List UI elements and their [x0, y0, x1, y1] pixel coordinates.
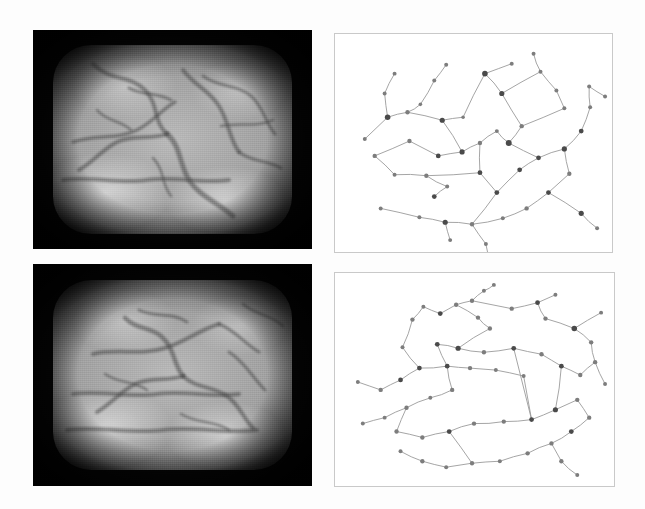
graph-edge: [381, 208, 420, 217]
graph-edge: [548, 174, 569, 193]
graph-edge: [385, 93, 388, 117]
graph-edge: [385, 74, 395, 94]
graph-node: [501, 216, 505, 220]
graph-node: [569, 429, 574, 434]
graph-edge: [589, 87, 605, 97]
graph-edge: [458, 328, 490, 348]
graph-edge: [551, 443, 561, 461]
graph-node: [562, 106, 566, 110]
graph-node: [432, 79, 436, 83]
graph-node: [536, 155, 541, 160]
graph-edge: [542, 354, 562, 366]
graph-edge: [522, 108, 565, 126]
graph-edge: [497, 170, 520, 193]
graph-node: [407, 139, 411, 143]
graph-node: [379, 206, 383, 210]
graph-edge: [407, 104, 420, 112]
graph-edge: [520, 158, 539, 170]
graph-node: [417, 366, 422, 371]
graph-node: [393, 173, 397, 177]
graph-edge: [580, 362, 595, 375]
graph-edge: [442, 120, 462, 152]
graph-node: [559, 364, 564, 369]
panel-bottom-left-image: [33, 264, 312, 486]
graph-node: [478, 170, 483, 175]
graph-edge: [430, 390, 452, 398]
specimen-region-bottom: [53, 280, 293, 471]
graph-edge: [462, 143, 480, 152]
graph-edge: [375, 141, 410, 156]
graph-edge: [479, 143, 480, 173]
graph-edge: [365, 117, 388, 139]
graph-node: [460, 149, 465, 154]
graph-edge: [434, 187, 447, 197]
graph-edge: [419, 217, 445, 222]
graph-edge: [472, 224, 486, 244]
graph-node: [468, 366, 472, 370]
graph-node: [476, 315, 480, 319]
graph-edge: [551, 432, 571, 444]
graph-node: [410, 317, 414, 321]
graph-edge: [437, 344, 447, 366]
graph-edge: [406, 398, 430, 408]
graph-node: [461, 115, 465, 119]
graph-edge: [426, 173, 480, 176]
graph-edge: [422, 432, 449, 438]
graph-edge: [509, 143, 539, 158]
graph-nodes-top: [363, 52, 607, 252]
graph-edge: [564, 149, 569, 174]
graph-node: [575, 473, 579, 477]
graph-node: [567, 172, 571, 176]
graph-node: [539, 352, 543, 356]
graph-node: [535, 300, 540, 305]
graph-node: [421, 305, 425, 309]
graph-edge: [556, 90, 564, 108]
graph-node: [517, 167, 522, 172]
graph-edge: [574, 313, 601, 329]
graph-node: [398, 378, 403, 383]
graph-edge: [545, 319, 574, 329]
panel-top-left-image: [33, 30, 312, 249]
graph-edge: [502, 72, 541, 94]
graph-edge: [502, 93, 522, 126]
graph-edge: [561, 461, 577, 475]
graph-edge: [447, 366, 452, 390]
graph-edge: [485, 64, 512, 74]
graph-node: [356, 380, 360, 384]
graph-node: [529, 417, 534, 422]
graph-node: [436, 154, 441, 159]
graph-node: [494, 190, 499, 195]
graph-top-right-svg: [335, 34, 612, 252]
graph-node: [378, 388, 382, 392]
graph-node: [499, 91, 504, 96]
graph-node: [445, 364, 450, 369]
graph-node: [510, 62, 514, 66]
graph-node: [420, 435, 424, 439]
graph-edge: [472, 291, 484, 301]
graph-node: [450, 388, 454, 392]
graph-node: [579, 211, 584, 216]
graph-node: [488, 326, 492, 330]
graph-edge: [419, 366, 447, 368]
graph-edge: [504, 420, 532, 422]
graph-edge: [571, 418, 589, 432]
graph-node: [445, 185, 449, 189]
graph-node: [444, 465, 448, 469]
graph-node: [559, 459, 563, 463]
graph-edge: [438, 152, 462, 156]
graph-edge: [485, 74, 502, 94]
graph-node: [417, 215, 421, 219]
graph-edge: [589, 87, 590, 108]
graph-edge: [534, 54, 541, 72]
graph-node: [478, 141, 482, 145]
graph-edge: [548, 193, 581, 214]
graph-edge: [401, 451, 423, 461]
graph-edge: [500, 453, 528, 461]
graph-edge: [403, 347, 420, 368]
graph-edge: [446, 463, 472, 467]
graph-edge: [407, 112, 442, 120]
graph-edge: [509, 126, 522, 143]
graph-edge: [445, 222, 472, 224]
graph-node: [448, 238, 452, 242]
graph-edge: [528, 443, 552, 453]
